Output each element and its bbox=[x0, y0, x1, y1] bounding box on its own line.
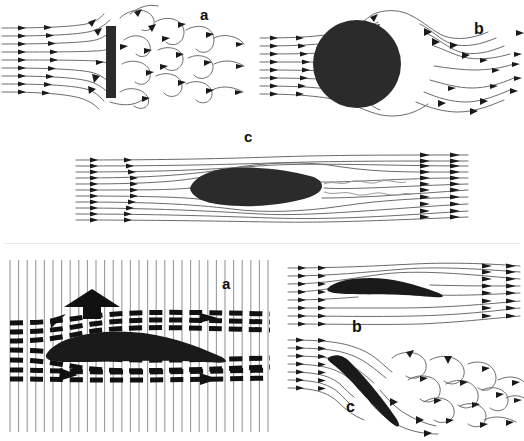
figure-divider bbox=[4, 243, 520, 244]
panel-upper-b: b bbox=[252, 0, 524, 125]
figure-root: a bbox=[0, 0, 524, 441]
panel-label-lower-a: a bbox=[222, 275, 231, 292]
panel-label-lower-c: c bbox=[346, 398, 355, 415]
panel-lower-c: c bbox=[284, 336, 524, 441]
airfoil-body-lower-b bbox=[327, 278, 443, 297]
panel-lower-b: b bbox=[284, 258, 524, 336]
flat-plate-body bbox=[106, 26, 116, 98]
cylinder-body bbox=[313, 20, 401, 108]
panel-label-upper-c: c bbox=[244, 128, 252, 145]
streamlined-body bbox=[190, 167, 322, 206]
panel-label-upper-a: a bbox=[200, 6, 209, 23]
panel-upper-a: a bbox=[0, 0, 250, 125]
panel-upper-c: c bbox=[72, 126, 472, 238]
airfoil-body-lower-c bbox=[328, 355, 399, 426]
wake-arrowheads-lower-c bbox=[390, 350, 522, 437]
panel-label-upper-b: b bbox=[474, 20, 484, 37]
panel-lower-a: a bbox=[4, 256, 276, 438]
panel-label-lower-b: b bbox=[352, 318, 362, 335]
